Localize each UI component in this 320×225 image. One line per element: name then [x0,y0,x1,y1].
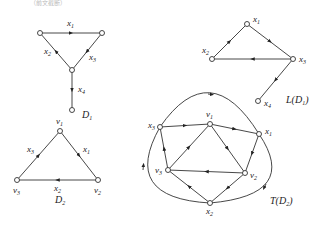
node-x1 [257,132,262,137]
label-x1: x1 [66,18,74,29]
graph-title-d2: D2 [54,194,65,206]
label-x4: x4 [263,98,271,109]
label-x3: x3 [147,120,155,131]
edge-v2-v3 [168,170,245,173]
edge-v3-v1 [168,124,210,170]
arrow [208,94,212,95]
label-x2: x2 [43,46,51,57]
node [70,68,75,73]
edge-x3 [17,131,60,180]
arc-x1-x2 [210,134,272,203]
graph-title-ld1: L(D1) [285,94,309,106]
node-v1 [58,129,63,134]
label-x4: x4 [77,84,85,95]
label-x1: x1 [82,144,90,155]
edge-v2-x2 [210,173,245,203]
node-x3 [291,57,296,62]
node [100,31,105,36]
node [38,31,43,36]
edge-x2-x1 [212,24,247,59]
node-v3 [15,178,20,183]
node-x2 [208,201,213,206]
graph-td2: v1 v2 v3 x1 x2 x3 T(D2) [143,93,293,217]
graph-d1: x1 x2 x3 x4 D1 [38,18,105,121]
label-v2: v2 [94,185,101,196]
edge-x1-v2 [245,134,259,173]
edge-x3-v1 [160,124,210,127]
edge-v3-x3 [160,127,168,170]
node-x2 [210,57,215,62]
label-x2: x2 [53,183,61,194]
node-v2 [96,178,101,183]
graph-title-td2: T(D2) [270,195,293,207]
node-v2 [243,171,248,176]
label-v3: v3 [13,185,20,196]
label-x3: x3 [88,52,96,63]
node-x4 [256,99,261,104]
edge-x1 [60,131,98,180]
graphs-svg: x1 x2 x3 x4 D1 x1 x2 x3 x4 L(D1) [0,0,320,225]
graph-ld1: x1 x2 x3 x4 L(D1) [201,14,309,109]
label-x2: x2 [201,45,209,56]
graph-title-d1: D1 [81,109,92,121]
diagram-canvas: （前文截断） x1 x2 x3 x4 D1 [0,0,320,225]
graph-d2: v1 v2 v3 x1 x2 x3 D2 [13,116,101,206]
label-x3: x3 [26,144,34,155]
label-x2: x2 [205,206,213,217]
arrow [143,165,144,170]
node-x1 [245,22,250,27]
node-x3 [158,125,163,130]
label-v1: v1 [56,116,63,127]
label-x1: x1 [264,126,272,137]
label-x3: x3 [298,54,306,65]
edge-x2-v3 [168,170,210,203]
node [70,108,75,113]
label-x1: x1 [252,14,260,25]
edge-x3 [72,33,102,70]
label-v3: v3 [155,165,162,176]
node-v3 [166,168,171,173]
label-v1: v1 [206,109,213,120]
edge-x1-x3 [247,24,293,59]
edge-v1-x1 [210,124,259,134]
node-v1 [208,122,213,127]
label-v2: v2 [250,170,257,181]
edge-v1-v2 [210,124,245,173]
